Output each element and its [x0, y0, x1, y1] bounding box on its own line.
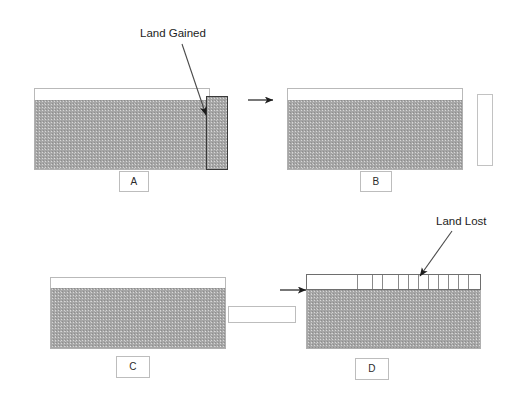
panel-d-erosion-segment [307, 275, 358, 289]
land-gained-label: Land Gained [140, 27, 206, 40]
panel-d-eroded-band [306, 274, 481, 290]
panel-d-erosion-segment [358, 275, 373, 289]
panel-c-top-void [50, 277, 226, 288]
panel-label-d-text: D [368, 364, 376, 374]
panel-a-top-void [34, 88, 210, 100]
panel-a [34, 88, 230, 170]
panel-a-land-gained-sliver [206, 96, 228, 170]
panel-label-b: B [360, 171, 392, 192]
panel-c-soil-body [50, 288, 226, 349]
diagram-canvas: A B C D Land Gained Land Lost [0, 0, 514, 409]
panel-a-soil-body [34, 100, 210, 170]
panel-b-soil-body [287, 100, 463, 170]
panel-d-erosion-segment [439, 275, 449, 289]
panel-d-erosion-segment [383, 275, 399, 289]
panel-b [287, 88, 477, 170]
panel-c [50, 277, 226, 349]
panel-label-a: A [119, 171, 149, 192]
panel-label-c: C [116, 356, 150, 378]
panel-label-a-text: A [130, 177, 137, 187]
panel-d-erosion-segment [419, 275, 429, 289]
panel-label-b-text: B [372, 177, 379, 187]
panel-d-erosion-segment [399, 275, 409, 289]
panel-label-d: D [355, 358, 389, 380]
panel-c-land-slab [228, 306, 296, 323]
panel-label-c-text: C [129, 362, 137, 372]
land-lost-text: Land Lost [436, 215, 487, 227]
land-lost-leader-line [420, 231, 452, 276]
panel-d [306, 274, 481, 349]
panel-d-erosion-segment [469, 275, 480, 289]
panel-d-erosion-segment [373, 275, 384, 289]
panel-b-top-void [287, 88, 463, 100]
panel-d-erosion-segment [409, 275, 419, 289]
panel-d-soil-body [306, 290, 481, 349]
land-gained-text: Land Gained [140, 27, 206, 39]
panel-d-erosion-segment [459, 275, 469, 289]
panel-d-erosion-segment [449, 275, 459, 289]
panel-b-land-gained-sliver [477, 94, 493, 166]
panel-d-erosion-segment [429, 275, 439, 289]
land-lost-label: Land Lost [436, 215, 487, 228]
